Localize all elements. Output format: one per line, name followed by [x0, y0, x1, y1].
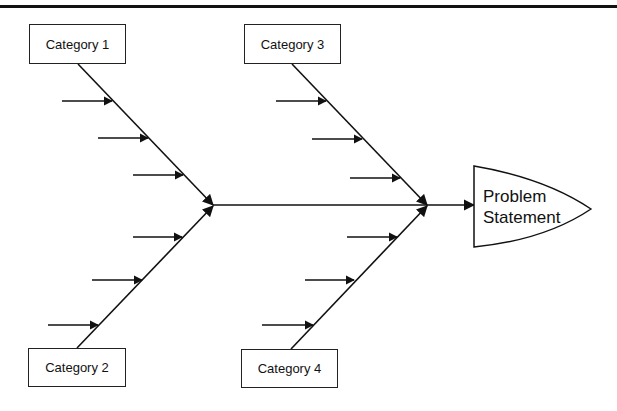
bone-category-2	[77, 206, 213, 348]
category-1-label: Category 1	[46, 37, 110, 52]
problem-line-1: Problem	[483, 186, 561, 207]
category-3-label: Category 3	[261, 37, 325, 52]
bone-category-1	[78, 64, 213, 205]
problem-statement-label: Problem Statement	[483, 186, 561, 228]
problem-line-2: Statement	[483, 207, 561, 228]
category-4-label: Category 4	[258, 361, 322, 376]
category-2-label: Category 2	[45, 360, 109, 375]
bone-category-4	[291, 206, 427, 349]
category-4-box: Category 4	[241, 349, 338, 388]
category-2-box: Category 2	[28, 348, 126, 387]
category-1-box: Category 1	[29, 24, 126, 64]
category-3-box: Category 3	[244, 24, 341, 64]
bone-category-3	[292, 64, 427, 205]
